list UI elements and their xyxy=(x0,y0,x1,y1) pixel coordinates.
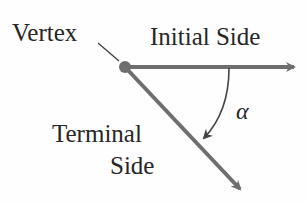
terminal-side-label-line1: Terminal xyxy=(52,121,142,146)
vertex-leader-line xyxy=(98,43,119,61)
terminal-side-label-line2: Side xyxy=(110,153,154,178)
angle-diagram: Vertex Initial Side Terminal Side α xyxy=(0,0,307,203)
vertex-label: Vertex xyxy=(12,20,77,45)
angle-alpha-label: α xyxy=(236,99,249,123)
vertex-point xyxy=(119,61,131,73)
angle-arc-arrow xyxy=(204,68,229,138)
initial-side-label: Initial Side xyxy=(150,24,260,49)
